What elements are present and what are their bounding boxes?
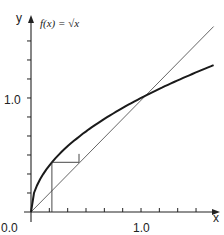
chart-canvas: y f(x) = √x 1.0 0.0 1.0 x (0, 0, 224, 235)
y-tick-label-1: 1.0 (4, 93, 21, 107)
origin-label: 0.0 (1, 221, 18, 235)
sqrt-curve (31, 65, 214, 212)
cobweb-lines (52, 154, 79, 212)
tick-marks (27, 41, 196, 212)
identity-line (31, 27, 214, 212)
x-tick-label-1: 1.0 (133, 221, 150, 235)
axes (24, 15, 220, 222)
x-axis-label: x (213, 211, 219, 225)
y-axis-label: y (16, 11, 22, 25)
chart-title: f(x) = √x (40, 17, 79, 30)
